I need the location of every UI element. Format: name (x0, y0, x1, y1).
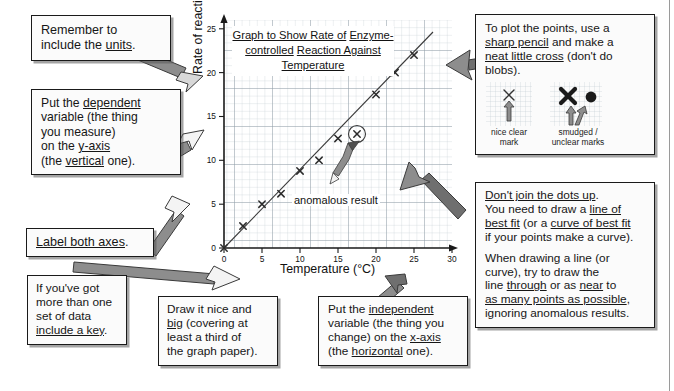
graph-title-line-1: Graph to Show Rate of (232, 29, 346, 41)
dependent-line-5: (the vertical one). (41, 154, 171, 168)
svg-text:10: 10 (207, 155, 217, 165)
dependent-onthe: on the (41, 139, 78, 153)
page-border-line (669, 0, 670, 391)
best-fit-underlined: best fit (485, 216, 520, 230)
bestfit-p2-line5: ignoring anomalous results. (485, 307, 645, 321)
units-line-1: Remember to (41, 23, 161, 38)
independent-underlined: independent (369, 302, 434, 316)
label-axes-line: Label both axes. (36, 235, 144, 250)
dependent-the: (the (41, 154, 65, 168)
curve-of-best-fit-underlined: curve of best fit (551, 216, 631, 230)
svg-text:0: 0 (222, 254, 227, 264)
label-axes-underlined: Label both axes (36, 235, 125, 249)
key-underlined: include a key (36, 323, 104, 337)
y-axis-label: Rate of reaction (cm3/s) (190, 0, 205, 74)
callout-independent-variable: Put the independent variable (the thing … (318, 296, 468, 366)
svg-text:20: 20 (207, 68, 217, 78)
independent-change: change) on the (328, 330, 410, 344)
big-line-1: Draw it nice and (167, 303, 269, 317)
vertical-underlined: vertical (65, 154, 104, 168)
independent-line-1: Put the independent (328, 303, 458, 317)
bestfit-p1-line2: best fit (or a curve of best fit (485, 217, 645, 231)
key-line-4: include a key. (36, 324, 118, 338)
dependent-underlined: dependent (83, 96, 141, 110)
big-line-2: big (covering at (167, 317, 269, 331)
through-underlined: through (507, 278, 547, 292)
smudged-marks-icon (549, 81, 607, 127)
dependent-pre: Put the (41, 96, 83, 110)
dependent-line-3: you measure) (41, 125, 171, 139)
dependent-one: one). (104, 154, 135, 168)
dependent-line-4: on the y-axis (41, 139, 171, 153)
big-covering: (covering at (183, 316, 248, 330)
bad-caption-1: smudged / (549, 127, 607, 137)
independent-the: (the (328, 344, 352, 358)
yaxis-underlined: y-axis (78, 139, 110, 153)
callout-include-a-key: If you've got more than one set of data … (27, 275, 127, 345)
plot-line-2: sharp pencil and make a (485, 36, 645, 50)
bad-mark-example: smudged / unclear marks (549, 81, 607, 147)
svg-text:25: 25 (409, 254, 419, 264)
good-caption-2: mark (485, 137, 533, 147)
key-line-2: more than one (36, 296, 118, 310)
label-axes-period: . (125, 235, 129, 249)
bestfit-to: to (603, 278, 616, 292)
key-line-3: set of data (36, 310, 118, 324)
near-underlined: near (579, 278, 603, 292)
bestfit-heading: Don't join the dots up. (485, 189, 645, 203)
plot-dont-do: (don't do (564, 49, 613, 63)
good-caption-1: nice clear (485, 127, 533, 137)
key-line-1: If you've got (36, 282, 118, 296)
bestfit-p1-line3: if your points make a curve). (485, 231, 645, 245)
bestfit-heading-period: . (595, 188, 598, 202)
bestfit-oras: or as (547, 278, 580, 292)
xaxis-underlined: x-axis (410, 330, 441, 344)
callout-label-both-axes: Label both axes. (26, 228, 154, 257)
horizontal-underlined: horizontal (352, 344, 403, 358)
independent-one: one). (403, 344, 433, 358)
mark-examples: nice clear mark smudged / unclear marks (485, 81, 645, 147)
plot-line-1: To plot the points, use a (485, 22, 645, 36)
big-underlined: big (167, 316, 183, 330)
bestfit-p2-line4: as many points as possible, (485, 293, 645, 307)
bestfit-p1-line1: You need to draw a line of (485, 203, 645, 217)
independent-pre: Put the (328, 302, 369, 316)
bestfit-p2-line1: When drawing a line (or (485, 252, 645, 266)
units-period: . (132, 38, 136, 52)
independent-line-2: variable (the thing you (328, 317, 458, 331)
bestfit-need: You need to draw a (485, 202, 590, 216)
svg-text:5: 5 (211, 199, 216, 209)
x-axis-label: Temperature (°C) (280, 262, 375, 276)
units-text: include the (41, 38, 105, 52)
callout-plot-points: To plot the points, use a sharp pencil a… (475, 14, 655, 155)
plot-and-make: and make a (549, 35, 614, 49)
good-mark-example: nice clear mark (485, 81, 533, 147)
graph-title-line-4: Temperature (282, 59, 345, 71)
units-underlined: units (105, 38, 132, 52)
anomalous-result-annotation: anomalous result (292, 194, 380, 206)
bestfit-ora: (or a (520, 216, 551, 230)
bestfit-p2-line2: curve), try to draw the (485, 266, 645, 280)
neat-cross-underlined: neat little cross (485, 49, 564, 63)
independent-line-3: change) on the x-axis (328, 331, 458, 345)
bad-caption-2: unclear marks (549, 137, 607, 147)
arrow-label-axes-to-yaxis (148, 196, 190, 256)
bestfit-p2-line3: line through or as near to (485, 279, 645, 293)
graph-title: Graph to Show Rate of Enzyme-controlled … (232, 26, 394, 76)
svg-text:0: 0 (211, 243, 216, 253)
bestfit-comma: , (627, 292, 630, 306)
big-line-3: least a third of (167, 331, 269, 345)
dont-join-underlined: Don't join the dots up (485, 188, 595, 202)
callout-draw-it-big: Draw it nice and big (covering at least … (158, 296, 278, 366)
units-line-2: include the units. (41, 38, 161, 53)
big-line-4: the graph paper). (167, 345, 269, 359)
sharp-pencil-underlined: sharp pencil (485, 35, 549, 49)
line-of-underlined: line of (590, 202, 621, 216)
key-period: . (104, 323, 107, 337)
plot-line-3: neat little cross (don't do (485, 50, 645, 64)
bestfit-line: line (485, 278, 507, 292)
svg-text:5: 5 (260, 254, 265, 264)
graph-figure: 0 5 10 15 20 25 0 5 10 15 20 25 30 (196, 12, 458, 280)
svg-text:30: 30 (447, 254, 457, 264)
callout-dependent-variable: Put the dependent variable (the thing yo… (31, 89, 181, 175)
